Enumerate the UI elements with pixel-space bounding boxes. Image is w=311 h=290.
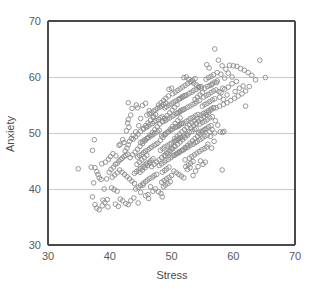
y-tick-label-40: 40 [29, 183, 41, 195]
scatter-chart: 3040506070 3040506070 Stress Anxiety [0, 0, 311, 290]
x-tick-label-70: 70 [289, 250, 301, 262]
x-axis-title: Stress [156, 269, 188, 281]
x-tick-label-50: 50 [165, 250, 177, 262]
y-tick-label-60: 60 [29, 71, 41, 83]
y-tick-label-30: 30 [29, 239, 41, 251]
chart-background [0, 0, 311, 290]
x-tick-label-60: 60 [227, 250, 239, 262]
scatter-plot-svg: 3040506070 3040506070 Stress Anxiety [0, 0, 311, 290]
x-tick-label-40: 40 [104, 250, 116, 262]
x-tick-label-30: 30 [42, 250, 54, 262]
y-tick-label-70: 70 [29, 15, 41, 27]
y-axis-title: Anxiety [4, 115, 16, 152]
y-tick-label-50: 50 [29, 127, 41, 139]
